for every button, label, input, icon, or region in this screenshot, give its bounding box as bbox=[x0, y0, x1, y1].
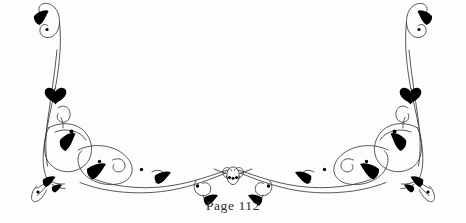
decorative-ornament bbox=[0, 0, 466, 223]
ornament-right-half bbox=[238, 3, 435, 205]
page-canvas: Page 112 bbox=[0, 0, 466, 223]
page-number-label: Page 112 bbox=[0, 198, 466, 214]
ornament-left-accents bbox=[34, 10, 218, 205]
ornament-left-half bbox=[32, 3, 229, 205]
center-rosette-dots bbox=[228, 176, 238, 180]
